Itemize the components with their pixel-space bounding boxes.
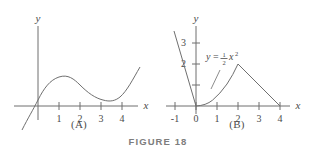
chart-panel-b: -1 0 1 2 3 4 2 3 x y <box>158 8 316 138</box>
figure-container: 1 2 3 4 x y (A) -1 0 <box>0 0 316 159</box>
panel-caption-b: (B) <box>158 118 316 130</box>
equation-numerator: 1 <box>222 51 225 58</box>
equation-denominator: 2 <box>222 59 225 66</box>
figure-caption: FIGURE 18 <box>0 136 316 147</box>
equation-exponent: 2 <box>235 50 238 57</box>
panel-caption-a: (A) <box>0 118 158 130</box>
parabola-curve-b <box>196 64 238 106</box>
descending-line-b <box>238 64 280 106</box>
equation-label-b: y = 1 2 x 2 <box>205 50 238 66</box>
y-tick-label-b-3: 3 <box>181 37 186 48</box>
y-axis-label-a: y <box>35 12 41 24</box>
equation-leader-line <box>211 70 220 89</box>
x-axis-label-a: x <box>143 99 149 111</box>
equation-variable: x <box>228 51 234 62</box>
y-axis-label-b: y <box>193 12 199 24</box>
chart-panel-a: 1 2 3 4 x y (A) <box>0 8 158 138</box>
x-axis-label-b: x <box>295 99 301 111</box>
equation-lhs: y <box>205 51 211 62</box>
equation-equals: = <box>213 51 219 62</box>
